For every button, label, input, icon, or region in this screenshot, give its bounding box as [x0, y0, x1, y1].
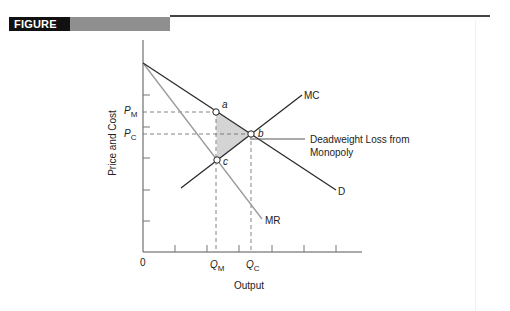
y-axis-title: Price and Cost	[107, 110, 118, 176]
deadweight-annotation-line1: Deadweight Loss from	[310, 134, 410, 145]
demand-curve	[143, 63, 336, 190]
pc-label: PC	[124, 128, 137, 142]
qc-label: QC	[246, 259, 260, 273]
qm-label: QM	[210, 259, 225, 273]
y-ticks	[143, 95, 150, 221]
mc-label: MC	[304, 90, 320, 101]
point-c-label: c	[223, 156, 228, 167]
point-a-marker	[213, 109, 219, 115]
mr-label: MR	[265, 215, 281, 226]
point-a-label: a	[222, 99, 228, 110]
monopoly-diagram: a b c MC D MR Deadweight Loss from Monop…	[0, 0, 510, 311]
x-axis-title: Output	[234, 280, 264, 291]
deadweight-annotation-line2: Monopoly	[310, 147, 353, 158]
x-ticks	[175, 245, 336, 252]
origin-label: 0	[140, 257, 146, 268]
mc-curve	[181, 95, 302, 188]
mr-curve	[143, 63, 262, 219]
demand-label: D	[338, 186, 345, 197]
point-b-marker	[248, 131, 254, 137]
point-c-marker	[214, 157, 220, 163]
point-b-label: b	[258, 128, 264, 139]
deadweight-loss-area	[216, 112, 251, 160]
pm-label: PM	[124, 105, 138, 119]
